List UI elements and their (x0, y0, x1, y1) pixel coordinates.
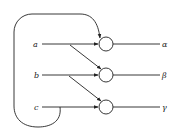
output-label-gamma: γ (162, 103, 167, 112)
input-label-b: b (34, 71, 39, 80)
node-2 (99, 68, 113, 82)
cross-wire-a-to-node-2 (70, 45, 101, 69)
output-label-alpha: α (162, 40, 168, 49)
node-1 (99, 37, 113, 51)
node-3 (99, 100, 113, 114)
input-label-a: a (33, 40, 38, 49)
cross-wire-b-to-node-3 (69, 76, 101, 101)
input-label-c: c (34, 103, 39, 112)
output-label-beta: β (161, 71, 167, 80)
network-diagram: a b c α β γ (0, 0, 178, 132)
feedback-loop-wire (14, 14, 100, 127)
